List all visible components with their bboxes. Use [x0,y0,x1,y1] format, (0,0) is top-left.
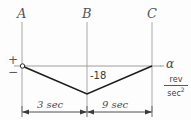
dimension-arrow-ab-left [22,110,29,115]
dimension-arrow-ab-right [80,110,87,115]
station-label-c: C [147,7,157,20]
units-fraction: rev sec2 [164,76,188,98]
units-denominator-exponent: 2 [181,86,185,93]
start-point-marker [20,64,24,68]
units-numerator: rev [164,76,188,84]
interval-label-bc: 9 sec [102,100,128,110]
station-label-a: A [17,7,26,20]
units-denominator-text: sec [167,89,181,98]
units-denominator: sec2 [164,87,188,98]
interval-label-ab: 3 sec [37,100,63,110]
alpha-symbol-label: α [166,58,174,70]
axis-minus-sign: − [8,66,18,78]
value-label-minus-18: -18 [90,71,106,81]
dimension-arrow-bc-right [145,110,152,115]
dimension-arrow-bc-left [87,110,94,115]
station-label-b: B [82,7,92,20]
figure-canvas: A B C + − -18 α rev sec2 3 sec 9 sec [0,0,191,120]
diagram-svg [0,0,191,120]
